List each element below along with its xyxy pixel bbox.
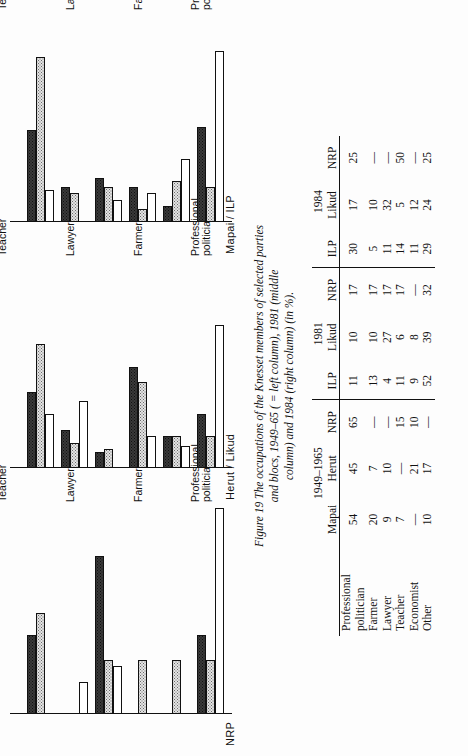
table-group-header: 1981 bbox=[312, 268, 326, 400]
table-cell: 11 bbox=[381, 230, 395, 267]
table-row: Professionalpolitician544565111017301725 bbox=[340, 136, 368, 636]
chart-panel-mapai-ilp: Mapai / ILPProfessionalpoliticianFarmerL… bbox=[6, 10, 238, 256]
table-column-header: Likud bbox=[326, 312, 340, 363]
table-rowlabel-header bbox=[326, 546, 340, 636]
table-row: Farmer207—131017510— bbox=[367, 136, 381, 636]
bar-194965-other bbox=[45, 190, 54, 222]
bar-1981-farmer bbox=[172, 181, 181, 222]
bar-group: Farmer bbox=[160, 262, 190, 468]
table-cell: — bbox=[408, 268, 422, 312]
table-cell: 50 bbox=[394, 136, 408, 180]
bar-group: Farmer bbox=[160, 16, 190, 222]
table-cell: 27 bbox=[381, 312, 395, 363]
table-cell: 10 bbox=[421, 493, 435, 546]
row-label-line1: Economist bbox=[408, 582, 420, 631]
bar-1984-teacher bbox=[95, 178, 104, 222]
table-group-header: 1949–1965 bbox=[312, 400, 326, 546]
table-corner-cell bbox=[312, 546, 326, 636]
bar-group: Other bbox=[24, 262, 54, 468]
bar-194965-teacher bbox=[113, 666, 122, 714]
bar-1981-other bbox=[36, 57, 45, 222]
table-cell: 17 bbox=[394, 268, 408, 312]
table-cell: 10 bbox=[340, 312, 368, 363]
table-group-header: 1984 bbox=[312, 136, 326, 268]
table-cell: 21 bbox=[408, 444, 422, 493]
chart-panels: NRPProfessionalpoliticianFarmerLawyerTea… bbox=[6, 8, 238, 748]
caption-line-2: and blocs, 1949–65 ( = left column), 198… bbox=[268, 270, 280, 503]
bar-1981-teacher bbox=[104, 187, 113, 222]
bar-1981-economist bbox=[70, 193, 79, 222]
table-row-label: Other bbox=[421, 546, 435, 636]
bar-1984-other bbox=[27, 392, 36, 468]
table-cell: 52 bbox=[421, 362, 435, 399]
table-row-label: Teacher bbox=[394, 546, 408, 636]
table-cell: — bbox=[408, 136, 422, 180]
table-cell: 29 bbox=[421, 230, 435, 267]
table-cell: — bbox=[408, 493, 422, 546]
table-row: Other1017—523932292425 bbox=[421, 136, 435, 636]
bar-group: Lawyer bbox=[126, 508, 156, 714]
table-cell: 9 bbox=[381, 493, 395, 546]
occupations-table: 1949–196519811984 MapaiHerutNRPILPLikudN… bbox=[312, 136, 435, 636]
category-label-line1: Farmer bbox=[132, 0, 144, 10]
table-column-header: ILP bbox=[326, 362, 340, 399]
table-cell: 20 bbox=[367, 493, 381, 546]
bar-1984-professional-politician bbox=[197, 635, 206, 714]
table-cell: 13 bbox=[367, 362, 381, 399]
bar-194965-farmer bbox=[181, 159, 190, 222]
table-column-header-row: MapaiHerutNRPILPLikudNRPILPLikudNRP bbox=[326, 136, 340, 636]
row-label-line1: Other bbox=[421, 605, 433, 631]
bar-194965-economist bbox=[79, 401, 88, 468]
table-cell: — bbox=[394, 444, 408, 493]
bar-1981-farmer bbox=[172, 436, 181, 468]
table-cell: 25 bbox=[421, 136, 435, 180]
table-body: Professionalpolitician544565111017301725… bbox=[340, 136, 435, 636]
table-column-header: ILP bbox=[326, 230, 340, 267]
table-cell: 6 bbox=[394, 312, 408, 363]
bar-1981-lawyer bbox=[138, 382, 147, 468]
table-column-header: Likud bbox=[326, 180, 340, 231]
bar-1984-teacher bbox=[95, 556, 104, 714]
table-column-header: Mapai bbox=[326, 493, 340, 546]
figure-page: NRPProfessionalpoliticianFarmerLawyerTea… bbox=[0, 0, 468, 756]
chart-panel-nrp: NRPProfessionalpoliticianFarmerLawyerTea… bbox=[6, 502, 238, 748]
bar-1984-professional-politician bbox=[197, 127, 206, 222]
table-cell: 9 bbox=[408, 362, 422, 399]
bar-group: Professionalpolitician bbox=[194, 262, 224, 468]
plot-area: ProfessionalpoliticianFarmerLawyerTeache… bbox=[10, 262, 232, 468]
category-label: Teacher bbox=[0, 0, 8, 10]
table-cell: 65 bbox=[340, 400, 368, 444]
bar-group: Teacher bbox=[92, 508, 122, 714]
caption-line-1: The occupations of the Knesset members o… bbox=[253, 225, 265, 499]
bar-1981-farmer bbox=[172, 660, 181, 714]
table-cell: 17 bbox=[367, 268, 381, 312]
table-cell: 14 bbox=[394, 230, 408, 267]
bar-194965-teacher bbox=[113, 200, 122, 222]
occupations-table-wrap: 1949–196519811984 MapaiHerutNRPILPLikudN… bbox=[312, 136, 435, 636]
bar-group: Teacher bbox=[92, 16, 122, 222]
table-cell: 17 bbox=[340, 180, 368, 231]
bar-1984-farmer bbox=[163, 436, 172, 468]
table-cell: 17 bbox=[381, 268, 395, 312]
table-row: Teacher7—151161714550 bbox=[394, 136, 408, 636]
bar-194965-lawyer bbox=[147, 436, 156, 468]
plot-area: ProfessionalpoliticianFarmerLawyerTeache… bbox=[10, 16, 232, 222]
bar-1981-other bbox=[36, 613, 45, 714]
table-cell: 11 bbox=[408, 230, 422, 267]
bar-1981-professional-politician bbox=[206, 187, 215, 222]
table-row-label: Professionalpolitician bbox=[340, 546, 368, 636]
table-cell: 10 bbox=[408, 400, 422, 444]
table-cell: 25 bbox=[340, 136, 368, 180]
table-cell: 12 bbox=[408, 180, 422, 231]
table-cell: 32 bbox=[381, 180, 395, 231]
table-cell: 32 bbox=[421, 268, 435, 312]
category-label-line2: politician bbox=[201, 0, 212, 10]
table-cell: 11 bbox=[340, 362, 368, 399]
row-label-line1: Farmer bbox=[367, 598, 379, 631]
table-group-header-row: 1949–196519811984 bbox=[312, 136, 326, 636]
category-label: Farmer bbox=[133, 0, 144, 10]
bar-group: Farmer bbox=[160, 508, 190, 714]
table-cell: 10 bbox=[367, 180, 381, 231]
table-row-label: Economist bbox=[408, 546, 422, 636]
bar-1981-professional-politician bbox=[206, 436, 215, 468]
